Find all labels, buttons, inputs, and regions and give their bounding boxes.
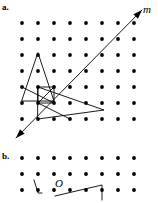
lattice-dot xyxy=(36,69,40,73)
lattice-dot xyxy=(52,117,56,121)
lattice-dot xyxy=(116,85,120,89)
lattice-dot xyxy=(84,117,88,121)
section-divider xyxy=(0,142,158,148)
lattice-dot xyxy=(20,156,24,160)
figure-page: a. b. m O xyxy=(0,0,158,203)
lattice-dot xyxy=(116,101,120,105)
lattice-dot xyxy=(116,117,120,121)
lattice-dot xyxy=(100,69,104,73)
lattice-dot xyxy=(52,156,56,160)
lattice-dot xyxy=(68,156,72,160)
lattice-dot xyxy=(84,53,88,57)
lattice-dot xyxy=(132,101,136,105)
line-m xyxy=(16,10,142,138)
part-label-a: a. xyxy=(2,3,9,12)
lattice-dot xyxy=(100,85,104,89)
line-label-m: m xyxy=(143,4,151,15)
lattice-dot xyxy=(116,21,120,25)
lattice-dot xyxy=(116,37,120,41)
lattice-dot xyxy=(116,188,120,192)
lattice-dot xyxy=(132,172,136,176)
lattice-dot xyxy=(84,69,88,73)
lattice-dots-part-a xyxy=(20,21,136,121)
lattice-dot xyxy=(68,85,72,89)
lattice-dot xyxy=(84,21,88,25)
lattice-dot xyxy=(100,37,104,41)
lattice-dot xyxy=(100,172,104,176)
lattice-dot xyxy=(84,156,88,160)
lattice-dot xyxy=(36,172,40,176)
lattice-dot xyxy=(100,21,104,25)
lattice-dot xyxy=(20,21,24,25)
point-label-o: O xyxy=(55,178,63,189)
lattice-dot xyxy=(132,37,136,41)
lattice-dot xyxy=(52,172,56,176)
lattice-dot xyxy=(132,53,136,57)
lattice-dots-part-b xyxy=(20,156,136,192)
lattice-dot xyxy=(52,37,56,41)
lattice-dot xyxy=(68,69,72,73)
lattice-dot xyxy=(68,172,72,176)
lattice-dot xyxy=(116,172,120,176)
lattice-dot xyxy=(116,69,120,73)
geometry-figure xyxy=(0,0,158,203)
lattice-dot xyxy=(20,117,24,121)
lattice-dot xyxy=(20,37,24,41)
lattice-dot xyxy=(100,156,104,160)
lattice-dot xyxy=(68,188,72,192)
lattice-dot xyxy=(132,156,136,160)
lattice-dot xyxy=(132,188,136,192)
lattice-dot xyxy=(36,21,40,25)
lattice-dot xyxy=(116,156,120,160)
lattice-dot xyxy=(68,53,72,57)
lattice-dot xyxy=(36,37,40,41)
lattice-dot xyxy=(84,85,88,89)
lattice-dot xyxy=(132,117,136,121)
lattice-dot xyxy=(68,101,72,105)
lattice-dot xyxy=(84,37,88,41)
lattice-dot xyxy=(132,69,136,73)
lattice-dot xyxy=(20,172,24,176)
lattice-dot xyxy=(36,156,40,160)
lattice-dot xyxy=(116,53,120,57)
lattice-dot xyxy=(68,37,72,41)
lattice-dot xyxy=(84,172,88,176)
lattice-dot xyxy=(20,69,24,73)
lattice-dot xyxy=(132,21,136,25)
figure-strokes-part-a xyxy=(16,10,142,138)
lattice-dot xyxy=(100,53,104,57)
part-label-b: b. xyxy=(2,152,9,161)
lattice-dot xyxy=(68,21,72,25)
lattice-dot xyxy=(100,117,104,121)
lattice-dot xyxy=(52,53,56,57)
lattice-dot xyxy=(100,101,104,105)
figure-strokes-part-b xyxy=(34,180,102,200)
lattice-dot xyxy=(20,101,24,105)
lattice-dot xyxy=(20,188,24,192)
lattice-dot xyxy=(132,85,136,89)
lattice-dot xyxy=(20,53,24,57)
lattice-dot xyxy=(52,69,56,73)
lattice-dot xyxy=(52,21,56,25)
